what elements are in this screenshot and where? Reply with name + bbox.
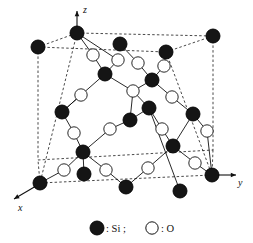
- silicon-atom: [70, 26, 84, 40]
- silicon-atom-circle: [123, 113, 137, 127]
- crystal-structure-figure: zyx : Si ; : O: [0, 0, 253, 243]
- oxygen-atom: [112, 54, 124, 66]
- silicon-atom-circle: [33, 176, 47, 190]
- oxygen-atom-circle: [201, 125, 213, 137]
- oxygen-atom: [189, 157, 201, 169]
- atoms-group: [31, 26, 220, 198]
- silicon-atom: [205, 168, 219, 182]
- oxygen-atom-circle: [87, 49, 99, 61]
- silicon-atom: [33, 176, 47, 190]
- oxygen-atom-circle: [58, 164, 70, 176]
- oxygen-atom: [58, 164, 70, 176]
- silicon-atom-circle: [186, 107, 200, 121]
- silicon-atom-circle: [70, 26, 84, 40]
- silicon-atom-circle: [77, 167, 91, 181]
- silicon-atom-circle: [55, 105, 69, 119]
- oxygen-atom-circle: [132, 57, 144, 69]
- oxygen-atom-circle: [112, 54, 124, 66]
- unit-cell-svg: zyx : Si ; : O: [0, 0, 253, 243]
- silicon-atom: [76, 145, 90, 159]
- oxygen-atom: [201, 125, 213, 137]
- oxygen-atom: [156, 123, 168, 135]
- oxygen-atom: [68, 127, 80, 139]
- silicon-atom: [119, 180, 133, 194]
- silicon-atom: [186, 107, 200, 121]
- silicon-atom: [159, 45, 173, 59]
- oxygen-atom: [87, 49, 99, 61]
- silicon-atom-circle: [31, 40, 45, 54]
- silicon-atom: [113, 37, 127, 51]
- z-axis-label: z: [82, 4, 87, 15]
- oxygen-atom: [158, 60, 170, 72]
- silicon-atom-circle: [206, 29, 220, 43]
- silicon-atom: [55, 105, 69, 119]
- oxygen-atom-circle: [189, 157, 201, 169]
- silicon-atom-circle: [119, 180, 133, 194]
- x-axis-label: x: [17, 202, 23, 213]
- silicon-atom-circle: [76, 145, 90, 159]
- y-axis-label: y: [237, 177, 243, 188]
- cell-edge: [77, 33, 213, 36]
- oxygen-atom: [142, 162, 154, 174]
- oxygen-atom: [132, 57, 144, 69]
- oxygen-atom-circle: [127, 85, 139, 97]
- silicon-atom-circle: [173, 184, 187, 198]
- oxygen-atom: [100, 164, 112, 176]
- silicon-atom-circle: [205, 168, 219, 182]
- oxygen-atom-circle: [75, 89, 87, 101]
- legend-silicon-label: : Si ;: [106, 223, 126, 234]
- silicon-atom-circle: [145, 73, 159, 87]
- legend-oxygen-label: : O: [161, 223, 175, 234]
- oxygen-atom-circle: [142, 162, 154, 174]
- y-axis-arrowhead: [231, 173, 236, 178]
- legend-oxygen-marker: [146, 222, 158, 234]
- oxygen-atom: [127, 85, 139, 97]
- silicon-atom-circle: [166, 139, 180, 153]
- cell-edge: [38, 150, 213, 160]
- silicon-atom: [206, 29, 220, 43]
- silicon-atom: [77, 167, 91, 181]
- silicon-atom: [123, 113, 137, 127]
- silicon-atom: [173, 184, 187, 198]
- silicon-atom: [142, 101, 156, 115]
- legend-silicon-marker: [90, 221, 104, 235]
- silicon-atom: [166, 139, 180, 153]
- silicon-atom-circle: [159, 45, 173, 59]
- silicon-atom: [98, 67, 112, 81]
- oxygen-atom-circle: [166, 91, 178, 103]
- oxygen-atom-circle: [158, 60, 170, 72]
- oxygen-atom-circle: [100, 164, 112, 176]
- legend-group: : Si ; : O: [90, 221, 175, 235]
- oxygen-atom: [104, 123, 116, 135]
- oxygen-atom-circle: [104, 123, 116, 135]
- silicon-atom-circle: [142, 101, 156, 115]
- oxygen-atom-circle: [156, 123, 168, 135]
- silicon-atom-circle: [98, 67, 112, 81]
- oxygen-atom: [166, 91, 178, 103]
- silicon-atom: [31, 40, 45, 54]
- silicon-atom: [145, 73, 159, 87]
- silicon-atom-circle: [113, 37, 127, 51]
- z-axis-arrowhead: [75, 11, 80, 16]
- oxygen-atom: [75, 89, 87, 101]
- oxygen-atom-circle: [68, 127, 80, 139]
